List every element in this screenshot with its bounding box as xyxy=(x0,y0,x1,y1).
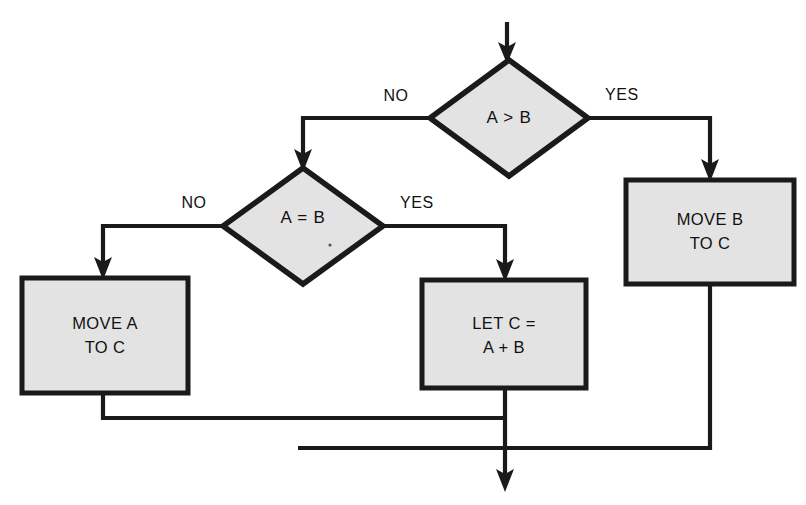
edge-label-decision-1-yes: YES xyxy=(605,86,639,103)
connector-move-a-merge xyxy=(103,393,505,418)
process-move-b-to-c-line2: TO C xyxy=(690,234,731,252)
process-move-a-to-c-line2: TO C xyxy=(85,338,126,356)
process-move-b-to-c[interactable]: MOVE B TO C xyxy=(626,180,794,284)
edge-label-decision-2-no: NO xyxy=(181,194,206,211)
process-move-a-to-c-line1: MOVE A xyxy=(72,314,138,332)
connector-decision-1-no xyxy=(294,118,430,172)
edge-label-decision-1-no: NO xyxy=(383,87,408,104)
decision-a-equals-b-label: A = B xyxy=(280,208,325,227)
process-let-c-line1: LET C = xyxy=(472,314,535,332)
flowchart-svg: A > B A = B MOVE A TO C LET C = A + B MO… xyxy=(0,0,806,505)
connector-decision-1-yes xyxy=(588,118,719,182)
entry-arrow-to-decision-1 xyxy=(498,22,516,64)
connector-decision-2-no xyxy=(94,226,223,280)
process-move-b-to-c-line1: MOVE B xyxy=(677,210,744,228)
decision-a-greater-b-label: A > B xyxy=(486,108,531,127)
decision-a-equals-b[interactable]: A = B xyxy=(223,168,383,284)
decision-a-greater-b[interactable]: A > B xyxy=(430,60,588,176)
process-let-c-equals-a-plus-b[interactable]: LET C = A + B xyxy=(422,280,586,388)
exit-arrow xyxy=(496,448,514,492)
process-let-c-line2: A + B xyxy=(483,338,525,356)
flowchart-canvas: A > B A = B MOVE A TO C LET C = A + B MO… xyxy=(0,0,806,505)
connector-decision-2-yes xyxy=(383,226,514,282)
process-move-a-to-c[interactable]: MOVE A TO C xyxy=(22,278,188,393)
edge-label-decision-2-yes: YES xyxy=(400,194,434,211)
print-speck xyxy=(328,243,331,246)
